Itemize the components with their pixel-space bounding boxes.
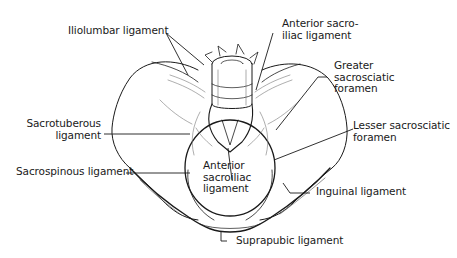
label-lesser-sacrosciatic-foramen: Lesser sacrosciatic foramen [353, 120, 450, 143]
leader-iliolumbar-1 [166, 33, 188, 75]
label-suprapubic-ligament: Suprapubic ligament [236, 235, 343, 247]
label-inguinal-ligament: Inguinal ligament [316, 186, 406, 198]
leader-iliolumbar-2 [166, 33, 204, 65]
leader-lesser-sacrosciatic [274, 129, 353, 160]
left-iliac-wing [112, 62, 198, 220]
lumbar-vertebra [205, 44, 258, 109]
label-anterior-sacroiliac-ligament-top: Anterior sacro- iliac ligament [282, 18, 358, 41]
leader-greater-sacrosciatic [276, 77, 327, 130]
label-greater-sacrosciatic-foramen: Greater sacrosciatic foramen [334, 60, 394, 95]
leader-suprapubic [221, 232, 227, 241]
leader-anterior-sacroiliac-top [256, 33, 273, 90]
pelvis-ligament-diagram: Iliolumbar ligament Anterior sacro- ilia… [0, 0, 457, 258]
label-anterior-sacroiliac-ligament-center: Anterior sacroiliac ligament [203, 160, 251, 195]
label-iliolumbar-ligament: Iliolumbar ligament [68, 25, 168, 37]
sacrum [209, 104, 253, 152]
label-sacrospinous-ligament: Sacrospinous ligament [16, 166, 133, 178]
label-sacrotuberous-ligament: Sacrotuberous ligament [15, 118, 101, 141]
